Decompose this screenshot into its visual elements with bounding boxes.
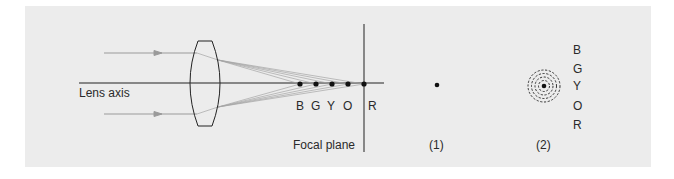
focal-plane-label: Focal plane bbox=[293, 139, 355, 151]
ring-label-o: O bbox=[573, 100, 582, 112]
focal-point-label-o: O bbox=[343, 100, 352, 112]
focal-point-label-g: G bbox=[311, 100, 320, 112]
ring-label-b: B bbox=[573, 44, 581, 56]
focal-point-label-b: B bbox=[296, 100, 304, 112]
lens-axis-label: Lens axis bbox=[79, 87, 130, 99]
ring-label-y: Y bbox=[573, 80, 581, 92]
blur-circle-center-dot bbox=[542, 84, 547, 89]
focal-point-label-y: Y bbox=[327, 100, 335, 112]
case-1-label: (1) bbox=[429, 139, 444, 151]
ring-label-r: R bbox=[573, 119, 582, 131]
ring-label-g: G bbox=[573, 63, 582, 75]
case-2-label: (2) bbox=[536, 139, 551, 151]
focal-point-label-r: R bbox=[368, 100, 377, 112]
point-image-dot bbox=[435, 83, 440, 88]
